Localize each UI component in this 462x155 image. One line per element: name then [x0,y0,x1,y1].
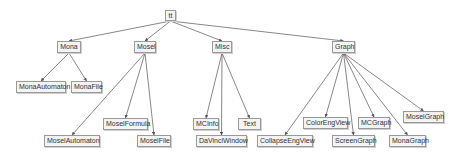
node-monaautomaton[interactable]: MonaAutomaton [16,81,66,93]
edge-tt-mosel [145,21,171,41]
node-misc[interactable]: Misc [212,41,232,53]
node-moselgraph[interactable]: MoselGraph [403,111,444,123]
edge-mosel-moselformula [126,53,146,118]
edge-misc-text [222,53,250,118]
node-collapseengview[interactable]: CollapseEngView [257,135,313,147]
edge-graph-colorengview [326,53,344,117]
edge-layer [0,0,462,155]
node-moselautomaton[interactable]: MoselAutomaton [44,135,100,147]
node-monafile[interactable]: MonaFile [71,81,102,93]
node-text[interactable]: Text [238,118,261,130]
node-graph[interactable]: Graph [332,41,355,53]
edge-graph-moselgraph [344,53,424,111]
edge-tt-mona [69,21,171,41]
edge-graph-mcgraph [344,53,375,117]
node-moselfile[interactable]: MoselFile [137,135,171,147]
edge-misc-davinciwindow [222,53,223,135]
node-monagraph[interactable]: MonaGraph [389,135,426,147]
node-davinciwindow[interactable]: DaVinciWindow [196,135,247,147]
node-mcinfo[interactable]: MCInfo [193,118,219,130]
edge-misc-mcinfo [206,53,222,118]
node-mcgraph[interactable]: MCGraph [358,117,390,129]
node-moselformula[interactable]: MoselFormula [103,118,148,130]
node-mosel[interactable]: Mosel [134,41,156,53]
node-tt[interactable]: tt [165,10,176,21]
node-mona[interactable]: Mona [57,41,81,53]
node-screengraph[interactable]: ScreenGraph [332,135,375,147]
edge-mona-monaautomaton [41,53,69,81]
node-colorengview[interactable]: ColorEngView [303,117,348,129]
edge-mona-monafile [69,53,87,81]
